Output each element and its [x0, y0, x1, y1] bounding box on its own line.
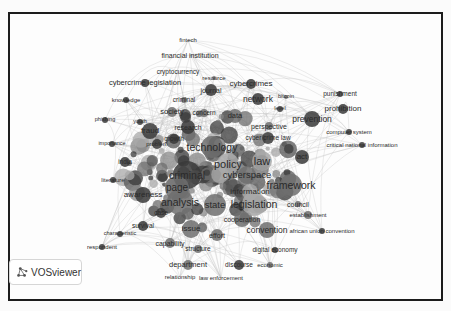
node-label[interactable]: network [243, 95, 273, 104]
node-label[interactable]: literature [101, 177, 124, 183]
node-label[interactable]: research [174, 124, 201, 131]
node-label[interactable]: cyberspace [223, 170, 272, 180]
node-label[interactable]: awareness [124, 191, 163, 199]
node-label[interactable]: resource [202, 75, 225, 81]
vosviewer-logo-icon [16, 265, 28, 279]
node-label[interactable]: respondent [87, 244, 117, 250]
node-label[interactable]: cyber crime law [245, 135, 290, 142]
node-label[interactable]: department [169, 261, 207, 269]
node-label[interactable]: page [166, 183, 188, 193]
node-label[interactable]: society [160, 108, 183, 116]
node-label[interactable]: computer system [326, 129, 372, 135]
node-label[interactable]: cybercrime legislation [109, 79, 181, 87]
node-label[interactable]: cooperation [224, 216, 261, 223]
node-label[interactable]: cryptocurrency [157, 69, 200, 76]
node-label[interactable]: problem [146, 141, 168, 147]
node-label[interactable]: perspective [251, 123, 287, 130]
node-label[interactable]: level [274, 106, 285, 112]
node-label[interactable]: characteristic [104, 231, 136, 237]
node-label[interactable]: phishing [95, 117, 116, 123]
network-map-frame: fintechfinancial institutioncryptocurren… [8, 12, 443, 301]
node-label[interactable]: law [254, 156, 271, 167]
node-label[interactable]: data [228, 112, 243, 120]
node-label[interactable]: legislation [231, 199, 278, 210]
brand-label: VOSviewer [31, 267, 81, 278]
node-label[interactable]: issue [182, 225, 201, 233]
node-label[interactable]: critical national information [326, 142, 397, 148]
node-label[interactable]: establishment [289, 212, 326, 218]
node-label[interactable]: framework [266, 180, 315, 191]
node-label[interactable]: african union convention [289, 228, 354, 234]
node-label[interactable]: act [297, 153, 308, 161]
node-label[interactable]: survival [132, 223, 154, 230]
node-label[interactable]: criminal [169, 170, 205, 181]
node-label[interactable]: convention [246, 226, 287, 235]
node-label[interactable]: digital economy [252, 247, 297, 254]
node-label[interactable]: cybercrimes [229, 80, 272, 88]
node-label[interactable]: discourse [225, 262, 253, 269]
node-label[interactable]: analysis [161, 197, 199, 208]
node-label[interactable]: punishment [323, 91, 357, 98]
node-label[interactable]: technology [187, 142, 238, 153]
node-label[interactable]: importance [98, 141, 125, 147]
node-label[interactable]: law enforcement [199, 275, 243, 281]
node-label[interactable]: capability [155, 240, 184, 247]
node-label[interactable]: fintech [179, 37, 197, 43]
node-label[interactable]: state [205, 200, 226, 210]
node-label[interactable]: structure [185, 246, 210, 253]
node-label[interactable]: criminal [173, 97, 195, 104]
node-label[interactable]: knowledge [112, 97, 141, 103]
node-label[interactable]: concern [192, 110, 215, 117]
node-label[interactable]: bitcoin [278, 94, 294, 100]
node-label[interactable]: prohibition [325, 105, 362, 113]
node-label[interactable]: council [287, 201, 309, 208]
node-label[interactable]: economic [257, 262, 283, 268]
node-label[interactable]: prevention [292, 115, 332, 124]
node-label[interactable]: case [154, 210, 168, 217]
node-label[interactable]: journal [200, 87, 221, 94]
node-label[interactable]: fraud [141, 127, 159, 135]
vosviewer-badge[interactable]: VOSviewer [9, 259, 82, 285]
node-label[interactable]: information [230, 188, 270, 196]
node-label[interactable]: effort [209, 232, 225, 239]
node-label[interactable]: financial institution [161, 52, 218, 59]
node-label[interactable]: youth [133, 119, 146, 125]
node-label[interactable]: relationship [165, 274, 196, 280]
node-label[interactable]: india [118, 159, 132, 166]
node-label[interactable]: policy [214, 159, 242, 170]
